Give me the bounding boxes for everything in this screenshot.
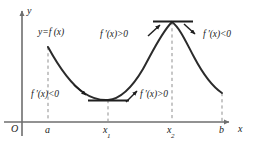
- tick-label-b: b: [219, 125, 224, 135]
- y-axis-label: y: [27, 6, 31, 16]
- tick-label-a-text: a: [45, 124, 50, 135]
- function-curve: [48, 22, 222, 100]
- dropline-group: [48, 22, 222, 121]
- annotation-increasing-upper: f ′(x)>0: [100, 30, 128, 40]
- tick-label-x2-subscript: 2: [171, 132, 175, 140]
- slope-arrow-increasing-middle: [126, 91, 137, 102]
- figure-canvas: [0, 0, 256, 145]
- derivative-sign-figure: y x O y=f (x) f ′(x)<0 f ′(x)>0 f ′(x)>0…: [0, 0, 256, 145]
- tick-label-x1: x1: [103, 125, 111, 138]
- x-axis-label: x: [238, 124, 242, 134]
- slope-arrow-group: [74, 24, 195, 102]
- curve-label: y=f (x): [38, 28, 64, 38]
- tick-label-x2: x2: [167, 125, 175, 138]
- origin-label: O: [11, 124, 18, 134]
- tick-label-b-text: b: [219, 124, 224, 135]
- tick-label-x1-subscript: 1: [107, 132, 111, 140]
- annotation-increasing-middle: f ′(x)>0: [140, 90, 168, 100]
- slope-arrow-decreasing-left: [74, 85, 86, 95]
- annotation-decreasing-right: f ′(x)<0: [203, 30, 231, 40]
- tick-label-a: a: [45, 125, 50, 135]
- slope-arrow-increasing-upper: [148, 25, 160, 36]
- annotation-decreasing-left: f ′(x)<0: [31, 90, 59, 100]
- slope-arrow-decreasing-right: [184, 24, 195, 34]
